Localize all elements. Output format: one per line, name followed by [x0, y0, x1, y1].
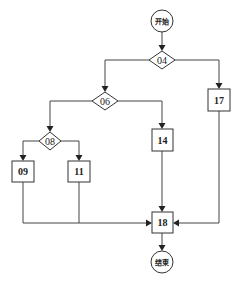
edge-08-11 [61, 141, 79, 157]
node-17[interactable]: 17 [208, 89, 230, 111]
node-09[interactable]: 09 [12, 161, 34, 182]
arrow-head [159, 245, 166, 251]
node-17-label: 17 [214, 95, 224, 106]
node-start-label: 开始 [155, 17, 169, 26]
node-06[interactable]: 06 [92, 92, 118, 110]
node-18-label: 18 [158, 217, 168, 228]
node-11[interactable]: 11 [68, 161, 90, 182]
node-09-label: 09 [18, 166, 28, 177]
node-start[interactable]: 开始 [151, 10, 173, 32]
edge-06-08 [50, 101, 92, 128]
arrow-head [76, 155, 83, 161]
arrow-head [159, 123, 166, 129]
edge-06-14 [118, 101, 162, 125]
node-08[interactable]: 08 [39, 132, 61, 150]
arrow-head [102, 86, 109, 92]
edge-04-06 [105, 60, 149, 88]
arrow-head [20, 155, 27, 161]
edge-09-18 [23, 182, 148, 223]
edge-04-17 [175, 60, 219, 85]
node-11-label: 11 [74, 166, 83, 177]
arrow-head [159, 45, 166, 51]
node-04-label: 04 [157, 55, 167, 66]
node-end[interactable]: 结束 [151, 251, 173, 273]
node-14-label: 14 [158, 135, 168, 146]
arrow-head [173, 220, 179, 227]
node-end-label: 结束 [154, 258, 170, 267]
arrow-head [216, 83, 223, 89]
edge-08-09 [23, 141, 39, 157]
arrow-head [146, 220, 152, 227]
node-14[interactable]: 14 [152, 129, 173, 151]
node-18[interactable]: 18 [152, 212, 173, 233]
node-04[interactable]: 04 [149, 51, 175, 69]
arrow-head [159, 206, 166, 212]
node-06-label: 06 [100, 96, 110, 107]
edge-17-18 [177, 111, 219, 223]
flowchart-canvas: 开始 04 06 08 09 11 14 17 18 结束 [0, 0, 235, 281]
node-08-label: 08 [45, 136, 55, 147]
arrow-head [47, 126, 54, 132]
